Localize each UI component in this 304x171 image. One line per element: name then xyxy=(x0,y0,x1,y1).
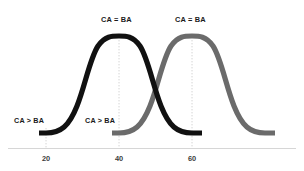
distribution-plot xyxy=(0,0,304,171)
black-distribution-curve xyxy=(39,36,202,133)
gray-peak-label: CA = BA xyxy=(175,16,206,23)
x-tick-label-20: 20 xyxy=(42,155,50,162)
x-tick-label-40: 40 xyxy=(115,155,123,162)
black-peak-label: CA = BA xyxy=(101,16,132,23)
gray-distribution-curve xyxy=(112,36,275,133)
chart-canvas: CA = BA CA = BA CA > BA CA > BA 20 40 60 xyxy=(0,0,304,171)
gray-tail-label: CA > BA xyxy=(85,117,115,124)
black-tail-label: CA > BA xyxy=(14,117,44,124)
x-tick-label-60: 60 xyxy=(188,155,196,162)
